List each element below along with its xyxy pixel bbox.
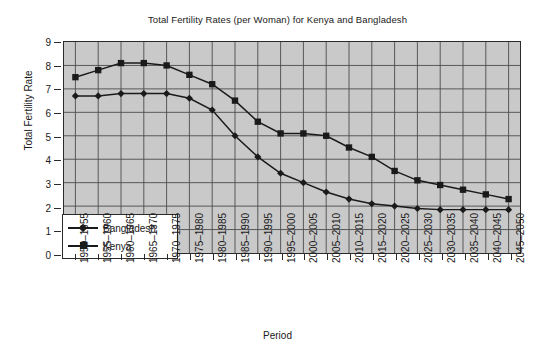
y-tick-mark bbox=[54, 42, 61, 43]
x-tick-mark bbox=[282, 254, 283, 260]
x-tick-label: 1960–1965 bbox=[125, 213, 136, 263]
x-tick-label: 2025–2030 bbox=[423, 213, 434, 263]
x-tick-label: 2040–2045 bbox=[492, 213, 503, 263]
x-tick-mark bbox=[419, 254, 420, 260]
x-tick-mark bbox=[236, 254, 237, 260]
x-tick-mark bbox=[167, 254, 168, 260]
x-axis: 1950–19551955–19601960–19651965–19701970… bbox=[63, 254, 522, 329]
x-tick-label: 2015–2020 bbox=[377, 213, 388, 263]
x-tick-mark bbox=[511, 254, 512, 260]
x-tick-label: 2045–2050 bbox=[515, 213, 526, 263]
x-tick-mark bbox=[350, 254, 351, 260]
x-tick-label: 2030–2035 bbox=[446, 213, 457, 263]
x-tick-mark bbox=[213, 254, 214, 260]
y-tick-label: 1 bbox=[11, 226, 51, 237]
y-tick-mark bbox=[54, 137, 61, 138]
x-tick-mark bbox=[327, 254, 328, 260]
y-tick-mark bbox=[54, 160, 61, 161]
y-tick-mark bbox=[54, 255, 61, 256]
fertility-rate-line-chart: Total Fertility Rates (per Woman) for Ke… bbox=[0, 0, 555, 357]
x-tick-mark bbox=[259, 254, 260, 260]
y-tick-label: 0 bbox=[11, 250, 51, 261]
y-tick-mark bbox=[54, 184, 61, 185]
y-tick-mark bbox=[54, 66, 61, 67]
x-tick-mark bbox=[75, 254, 76, 260]
y-tick-mark bbox=[54, 89, 61, 90]
chart-title: Total Fertility Rates (per Woman) for Ke… bbox=[0, 14, 555, 25]
x-tick-label: 1985–1990 bbox=[240, 213, 251, 263]
x-tick-label: 1990–1995 bbox=[263, 213, 274, 263]
y-tick-label: 2 bbox=[11, 202, 51, 213]
x-tick-label: 1955–1960 bbox=[102, 213, 113, 263]
x-tick-mark bbox=[488, 254, 489, 260]
y-tick-mark bbox=[54, 231, 61, 232]
x-tick-label: 1950–1955 bbox=[79, 213, 90, 263]
x-tick-label: 1965–1970 bbox=[148, 213, 159, 263]
x-tick-mark bbox=[144, 254, 145, 260]
x-tick-mark bbox=[396, 254, 397, 260]
x-tick-mark bbox=[98, 254, 99, 260]
x-tick-label: 1975–1980 bbox=[194, 213, 205, 263]
x-tick-label: 1995–2000 bbox=[286, 213, 297, 263]
x-tick-label: 2000–2005 bbox=[308, 213, 319, 263]
x-tick-mark bbox=[304, 254, 305, 260]
x-tick-mark bbox=[373, 254, 374, 260]
x-tick-label: 2005–2010 bbox=[331, 213, 342, 263]
x-tick-label: 2035–2040 bbox=[469, 213, 480, 263]
x-tick-mark bbox=[442, 254, 443, 260]
x-tick-mark bbox=[190, 254, 191, 260]
x-tick-label: 1970–1975 bbox=[171, 213, 182, 263]
x-tick-label: 2020–2025 bbox=[400, 213, 411, 263]
y-tick-mark bbox=[54, 113, 61, 114]
x-tick-mark bbox=[465, 254, 466, 260]
x-axis-title: Period bbox=[0, 330, 555, 341]
y-axis-title: Total Fertility Rate bbox=[23, 21, 34, 201]
y-tick-mark bbox=[54, 208, 61, 209]
x-tick-mark bbox=[121, 254, 122, 260]
x-tick-label: 1980–1985 bbox=[217, 213, 228, 263]
x-tick-label: 2010–2015 bbox=[354, 213, 365, 263]
